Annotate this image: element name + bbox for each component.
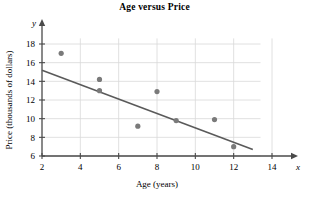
data-point (97, 88, 102, 93)
data-point (59, 51, 64, 56)
data-point (174, 118, 179, 123)
axis-ticks (39, 44, 272, 159)
data-point (97, 77, 102, 82)
data-point (231, 144, 236, 149)
y-axis-arrow (39, 19, 45, 26)
x-axis-arrow (291, 153, 298, 159)
axes (39, 19, 298, 159)
grid-lines (42, 38, 272, 156)
data-point (212, 117, 217, 122)
data-point (154, 89, 159, 94)
chart-container: Age versus Price 2468101214681012141618y… (0, 0, 309, 201)
data-point (135, 124, 140, 129)
scatter-plot-svg (0, 0, 309, 201)
